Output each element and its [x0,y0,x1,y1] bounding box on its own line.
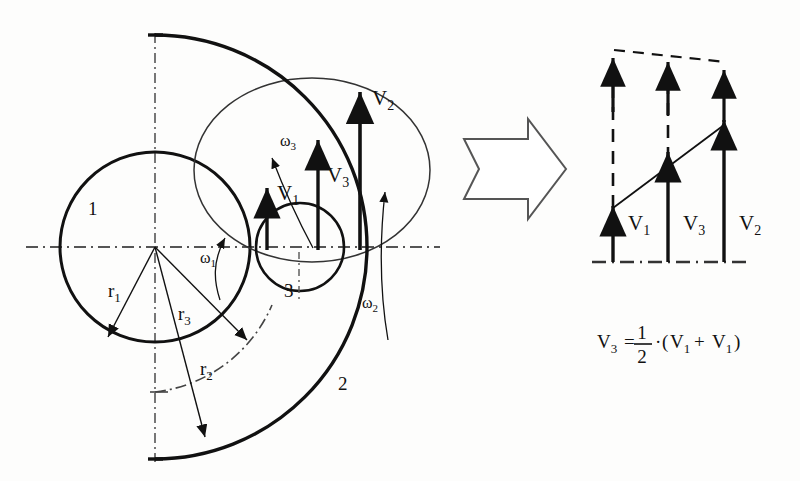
formula-equals: = [624,331,635,352]
label-v1-scheme: V1 [277,181,299,208]
label-v2-scheme: V2 [372,86,394,113]
dashed-top-connector [614,50,726,62]
label-v1-triangle: V1 [628,211,650,238]
formula-numerator: 1 [637,322,647,343]
label-omega-3: ω3 [280,132,297,152]
formula-dot: · [655,331,661,352]
formula-open-paren: ( [662,331,668,353]
leader-omega-2 [381,192,388,340]
label-omega-2: ω2 [362,294,378,314]
kinematic-scheme: 1 2 3 r1 r2 r3 ω1 ω2 ω3 V1 [26,33,440,462]
diagram-canvas: 1 2 3 r1 r2 r3 ω1 ω2 ω3 V1 [0,0,800,481]
formula-plus: + [694,331,705,352]
formula-denominator: 2 [637,346,647,367]
block-arrow-shape [464,119,566,219]
label-body-3: 3 [284,280,294,301]
label-body-2: 2 [338,373,348,394]
label-r3: r3 [178,303,191,328]
formula-close-paren: ) [734,331,740,353]
velocity-triangle: V1 V3 V2 [592,50,761,262]
formula-term-2: V1 [712,331,732,356]
label-v3-scheme: V3 [327,163,349,190]
label-v3-triangle: V3 [683,211,705,238]
label-omega-1: ω1 [200,249,216,269]
formula-term-1: V1 [670,331,690,356]
block-arrow [464,119,566,219]
figure-container: 1 2 3 r1 r2 r3 ω1 ω2 ω3 V1 [0,0,800,481]
label-v2-triangle: V2 [739,211,761,238]
formula-lhs: V3 [597,331,617,356]
label-body-1: 1 [88,198,98,219]
arc-r3-pitch-dashdot [155,305,272,392]
velocity-relation-formula: V3 = 1 2 · ( V1 + V1 ) [597,322,740,367]
label-r1: r1 [108,280,121,305]
